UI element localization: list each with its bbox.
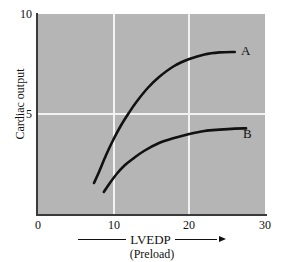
- x-axis-title-block: LVEDP (Preload): [38, 232, 266, 261]
- arrow-right-icon: [219, 236, 226, 242]
- series-label-a: A: [241, 44, 250, 57]
- x-tick-label-30: 30: [253, 219, 277, 231]
- x-tick-label-0: 0: [26, 219, 50, 231]
- x-tick-label-20: 20: [177, 219, 201, 231]
- x-axis-line: [36, 214, 267, 216]
- y-tick-label-10: 10: [8, 8, 32, 20]
- gridline-y-5: [38, 113, 265, 115]
- x-axis-left-rule: [78, 239, 126, 240]
- y-axis-line: [36, 13, 38, 215]
- x-axis-subtitle: (Preload): [38, 247, 266, 261]
- series-label-b: B: [243, 127, 252, 140]
- cardiac-output-chart: 10 5 0 10 20 30 Cardiac output LVEDP (Pr…: [0, 0, 286, 262]
- x-axis-right-rule: [175, 239, 217, 240]
- plot-area: [38, 14, 265, 214]
- x-tick-label-10: 10: [102, 219, 126, 231]
- y-axis-title: Cardiac output: [14, 49, 26, 159]
- x-axis-title: LVEDP: [130, 233, 171, 246]
